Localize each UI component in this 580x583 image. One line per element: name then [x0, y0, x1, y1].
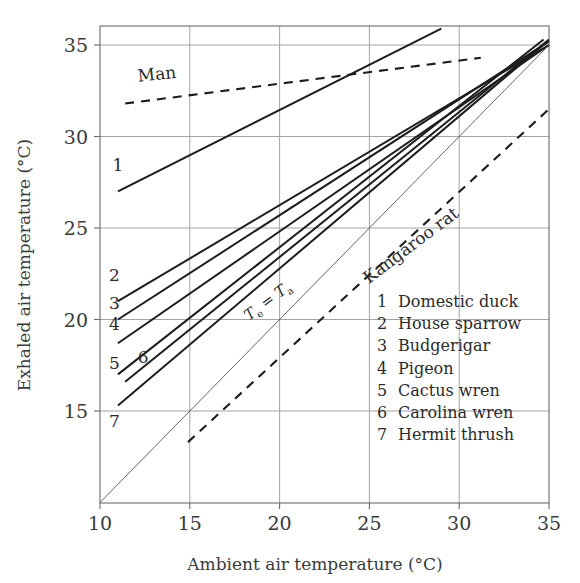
legend-item-label: Cactus wren: [398, 381, 500, 400]
series-number-label: 2: [109, 265, 120, 285]
y-tick-label: 20: [64, 309, 88, 331]
legend-item-number: 2: [377, 314, 387, 333]
x-tick-label: 35: [537, 512, 561, 534]
series-number-label: 1: [113, 155, 124, 175]
series-number-label: 7: [109, 411, 120, 431]
legend-item-label: Carolina wren: [398, 403, 513, 422]
series-number-label: 4: [109, 314, 120, 334]
series-number-label: 5: [109, 353, 120, 373]
legend-item-label: Pigeon: [398, 359, 454, 378]
exhaled-air-temperature-chart: 1234567 ManKangaroo ratTe = Ta 101520253…: [0, 0, 580, 583]
legend-item-number: 6: [377, 403, 387, 422]
legend-item-label: Hermit thrush: [398, 425, 514, 444]
chart-page: 1234567 ManKangaroo ratTe = Ta 101520253…: [0, 0, 580, 583]
x-tick-label: 25: [357, 512, 381, 534]
legend-item-number: 3: [377, 336, 387, 355]
legend-item-label: Budgerigar: [398, 336, 491, 355]
curve-label-man: Man: [137, 62, 177, 86]
x-tick-label: 30: [447, 512, 471, 534]
x-axis-title: Ambient air temperature (°C): [186, 554, 442, 574]
legend-item-number: 5: [377, 381, 387, 400]
x-tick-label: 15: [178, 512, 202, 534]
y-axis-title: Exhaled air temperature (°C): [14, 139, 34, 391]
x-tick-label: 20: [268, 512, 292, 534]
y-tick-label: 25: [64, 217, 88, 239]
legend-item-label: Domestic duck: [398, 292, 518, 311]
series-number-label: 3: [109, 293, 120, 313]
legend-item-label: House sparrow: [398, 314, 522, 333]
y-tick-label: 15: [64, 400, 88, 422]
y-tick-label: 35: [64, 34, 88, 56]
y-tick-label: 30: [64, 126, 88, 148]
legend-item-number: 1: [377, 292, 387, 311]
x-tick-label: 10: [88, 512, 112, 534]
series-number-label: 6: [138, 347, 149, 367]
legend-item-number: 4: [377, 359, 387, 378]
legend-item-number: 7: [377, 425, 387, 444]
